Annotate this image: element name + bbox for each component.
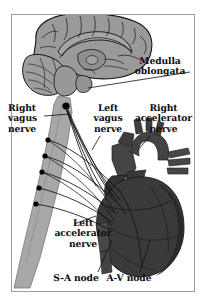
leader-left-vagus [92,136,100,150]
anatomy-illustration [0,0,207,306]
label-right-accelerator-nerve: Right accelerator nerve [132,104,195,135]
heart [96,118,190,277]
brain [23,13,152,96]
label-medulla-oblongata: Medulla oblongata [127,57,193,78]
label-right-vagus-line3: nerve [8,125,54,135]
label-left-vagus-line3: nerve [91,125,125,135]
label-left-vagus-nerve: Left vagus nerve [91,104,125,135]
medulla-origin-dot [62,102,69,109]
label-sa-node: S-A node [52,274,100,284]
label-left-accelerator-nerve: Left accelerator nerve [47,219,119,250]
label-left-accelerator-line3: nerve [47,240,119,250]
label-right-vagus-nerve: Right vagus nerve [8,104,54,135]
label-right-accelerator-line3: nerve [132,125,195,135]
label-medulla-line2: oblongata [127,67,193,77]
label-av-node: A-V node [105,274,153,284]
anatomy-figure: Medulla oblongata Right vagus nerve Left… [0,0,207,306]
label-av-node-line1: A-V node [105,274,153,284]
label-sa-node-line1: S-A node [52,274,100,284]
